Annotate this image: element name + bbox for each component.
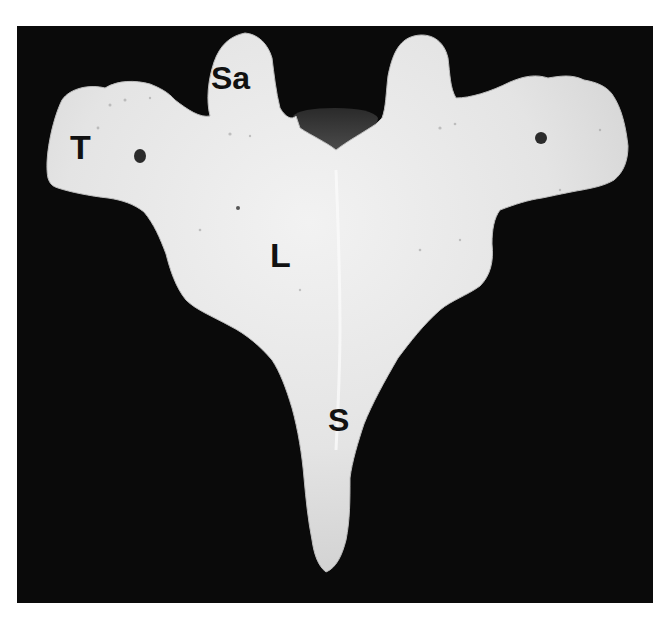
label-spinous-process: S xyxy=(328,404,349,436)
vertebra-image xyxy=(0,0,666,619)
label-superior-articular-process: Sa xyxy=(211,62,250,94)
right-foramen xyxy=(535,132,547,144)
label-transverse-process: T xyxy=(70,130,91,164)
left-foramen xyxy=(134,149,146,163)
nutrient-pit xyxy=(236,206,240,210)
label-lamina: L xyxy=(270,238,291,272)
